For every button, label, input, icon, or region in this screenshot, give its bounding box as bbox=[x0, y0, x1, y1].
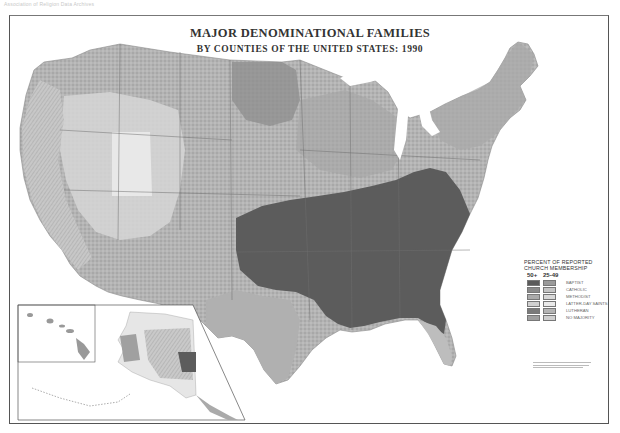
legend-item: METHODIST bbox=[527, 294, 607, 300]
legend-swatch-high bbox=[527, 287, 540, 293]
legend-swatch-high bbox=[527, 294, 540, 300]
legend-swatch-mid bbox=[543, 301, 556, 307]
legend-label: LUTHERAN bbox=[566, 308, 589, 314]
legend-item: LATTER-DAY SAINTS bbox=[527, 301, 607, 307]
choropleth-map bbox=[0, 0, 620, 433]
region-northeast bbox=[430, 42, 534, 150]
legend-label: LATTER-DAY SAINTS bbox=[566, 301, 608, 307]
region-utah-lds bbox=[112, 132, 152, 196]
legend-item: CATHOLIC bbox=[527, 287, 607, 293]
legend-title-line2: CHURCH MEMBERSHIP bbox=[524, 265, 604, 271]
legend-item: LUTHERAN bbox=[527, 308, 607, 314]
legend-swatch-mid bbox=[543, 308, 556, 314]
legend-swatch-mid bbox=[543, 280, 556, 286]
source-note bbox=[533, 362, 591, 370]
legend-swatch-high bbox=[527, 315, 540, 321]
map-subtitle: BY COUNTIES OF THE UNITED STATES: 1990 bbox=[0, 44, 620, 54]
legend-swatch-mid bbox=[543, 294, 556, 300]
legend-col-mid: 25-49 bbox=[543, 272, 558, 278]
legend-label: METHODIST bbox=[566, 294, 591, 300]
legend-swatch-high bbox=[527, 301, 540, 307]
legend-label: CATHOLIC bbox=[566, 287, 587, 293]
legend-col-high: 50+ bbox=[527, 272, 537, 278]
map-title: MAJOR DENOMINATIONAL FAMILIES bbox=[0, 26, 620, 41]
legend-swatch-mid bbox=[543, 287, 556, 293]
legend-swatch-mid bbox=[543, 315, 556, 321]
legend-swatch-high bbox=[527, 308, 540, 314]
legend-item: NO MAJORITY bbox=[527, 315, 607, 321]
legend-label: NO MAJORITY bbox=[566, 315, 595, 321]
legend: PERCENT OF REPORTED CHURCH MEMBERSHIP 50… bbox=[524, 259, 604, 271]
legend-item: BAPTIST bbox=[527, 280, 607, 286]
legend-swatch-high bbox=[527, 280, 540, 286]
legend-label: BAPTIST bbox=[566, 280, 583, 286]
